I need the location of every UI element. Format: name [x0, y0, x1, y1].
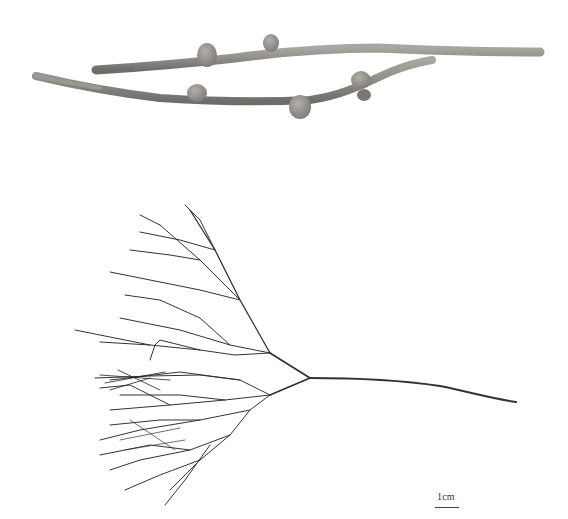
- scale-bar: [435, 507, 459, 508]
- top-panel-branches: [36, 34, 540, 119]
- scale-bar-label: 1cm: [437, 491, 455, 502]
- specimen-illustration: [0, 0, 568, 519]
- specimen-figure: 1cm: [0, 0, 568, 519]
- bottom-panel-thallus: [75, 205, 516, 505]
